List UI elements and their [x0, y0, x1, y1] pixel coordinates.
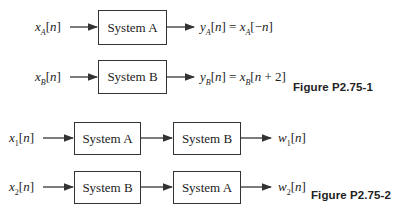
- system-a-box-row1: System A: [74, 122, 141, 155]
- output-yb: yB[n] = xB[n + 2]: [200, 69, 286, 87]
- system-a-box-row2: System A: [173, 171, 241, 204]
- input-xa: xA[n]: [35, 19, 61, 37]
- input-xb: xB[n]: [35, 69, 61, 87]
- system-b-box: System B: [98, 60, 167, 94]
- output-w1: w1[n]: [278, 130, 306, 148]
- input-x2: x2[n]: [9, 179, 34, 197]
- figure-caption-2: Figure P2.75-2: [311, 189, 391, 201]
- system-b-box-row2: System B: [74, 171, 141, 204]
- input-x1: x1[n]: [9, 130, 34, 148]
- output-w2: w2[n]: [278, 179, 306, 197]
- output-ya: yA[n] = xA[−n]: [200, 19, 273, 37]
- figure-caption-1: Figure P2.75-1: [293, 81, 373, 93]
- system-a-box: System A: [98, 10, 167, 45]
- system-b-box-row1: System B: [173, 122, 241, 155]
